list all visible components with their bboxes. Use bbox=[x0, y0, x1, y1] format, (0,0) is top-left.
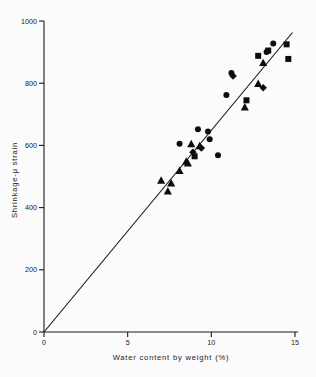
y-tick-label: 800 bbox=[25, 79, 37, 88]
data-point-triangle bbox=[157, 176, 165, 183]
y-tick-group: 02004006008001000 bbox=[21, 17, 44, 337]
y-tick-label: 1000 bbox=[21, 17, 37, 26]
x-tick-label: 0 bbox=[42, 338, 46, 347]
regression-line-group bbox=[44, 33, 292, 332]
regression-line bbox=[44, 33, 292, 332]
y-tick-label: 0 bbox=[33, 328, 37, 337]
data-point-square bbox=[243, 97, 249, 103]
data-markers-group bbox=[157, 40, 291, 194]
data-point-circle bbox=[177, 141, 183, 147]
figure-container: 02004006008001000 051015 Water content b… bbox=[0, 0, 316, 377]
y-tick-label: 400 bbox=[25, 203, 37, 212]
data-point-square bbox=[284, 41, 290, 47]
data-point-square bbox=[285, 56, 291, 62]
data-point-circle bbox=[205, 128, 211, 134]
data-point-triangle bbox=[259, 59, 267, 66]
data-point-circle bbox=[223, 92, 229, 98]
y-tick-label: 600 bbox=[25, 141, 37, 150]
y-axis-title: Shrinkage-μ strain bbox=[10, 142, 19, 218]
data-point-triangle bbox=[241, 103, 249, 110]
data-point-circle bbox=[270, 40, 276, 46]
x-tick-label: 10 bbox=[207, 338, 215, 347]
x-tick-label: 15 bbox=[291, 338, 299, 347]
data-point-square bbox=[255, 53, 261, 59]
data-point-circle bbox=[195, 126, 201, 132]
data-point-triangle bbox=[187, 140, 195, 147]
scatter-plot: 02004006008001000 051015 Water content b… bbox=[0, 0, 316, 377]
y-tick-label: 200 bbox=[25, 265, 37, 274]
x-axis-title: Water content by weight (%) bbox=[113, 353, 230, 362]
data-point-triangle bbox=[175, 167, 183, 174]
x-tick-group: 051015 bbox=[42, 332, 299, 347]
data-point-circle bbox=[215, 152, 221, 158]
data-point-circle bbox=[207, 136, 213, 142]
data-point-square bbox=[265, 48, 271, 54]
x-tick-label: 5 bbox=[126, 338, 130, 347]
data-point-triangle bbox=[254, 79, 262, 86]
data-point-triangle bbox=[164, 187, 172, 194]
